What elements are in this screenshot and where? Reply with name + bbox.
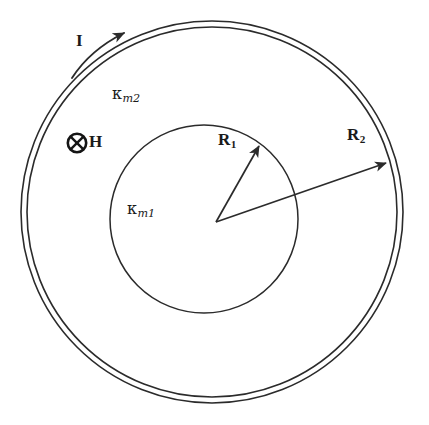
radius-arrow-r2: [216, 163, 386, 222]
current-label: I: [76, 32, 83, 49]
inner-radius-symbol: R: [218, 130, 230, 149]
outer-boundary-circle-inner-line: [27, 27, 397, 397]
inner-medium-kappa-symbol: κ: [127, 199, 137, 218]
current-label-text: I: [76, 31, 83, 50]
outer-radius-subscript: 2: [360, 133, 366, 145]
diagram-canvas: [0, 0, 429, 425]
outer-medium-permeability-label: κm2: [112, 86, 140, 105]
outer-radius-symbol: R: [347, 125, 359, 144]
radius-arrow-r1: [216, 146, 259, 222]
magnetic-field-label: H: [89, 133, 102, 150]
circled-cross-icon: [68, 134, 86, 152]
inner-radius-subscript: 1: [231, 138, 237, 150]
outer-radius-label: R2: [347, 126, 365, 145]
inner-medium-subscript: m1: [138, 207, 156, 220]
magnetic-field-label-text: H: [89, 132, 102, 151]
outer-medium-subscript: m2: [123, 92, 141, 105]
outer-medium-kappa-symbol: κ: [112, 84, 122, 103]
inner-radius-label: R1: [218, 131, 236, 150]
inner-medium-permeability-label: κm1: [127, 201, 155, 220]
magnetic-media-diagram: I H R1 R2 κm2 κm1: [0, 0, 429, 425]
outer-boundary-circle-outer-line: [21, 21, 403, 403]
